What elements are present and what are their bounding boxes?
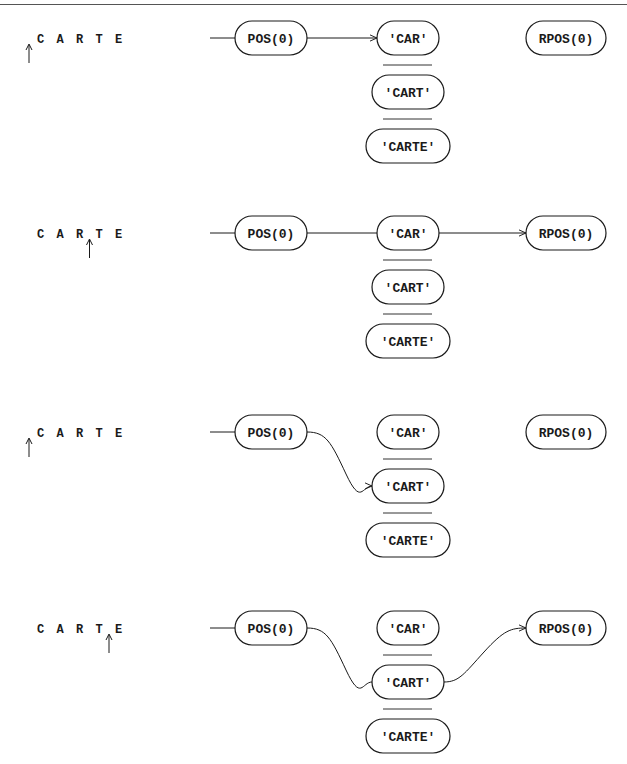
subject-char: R [76, 228, 84, 242]
match-path-edge [307, 432, 372, 492]
subject-char: C [37, 33, 44, 47]
subject-char: C [37, 427, 44, 441]
cursor-arrow-icon [106, 634, 112, 653]
rpos0-label: RPOS(0) [539, 227, 594, 242]
cursor-arrow-icon [26, 438, 32, 457]
alt-car-label: 'CAR' [388, 227, 427, 242]
rpos0-label: RPOS(0) [539, 426, 594, 441]
alt-cart-label: 'CART' [385, 86, 432, 101]
trace-panel: CARTEPOS(0)'CAR''CART''CARTE'RPOS(0) [37, 216, 606, 358]
subject-char: E [115, 228, 122, 242]
rpos0-label: RPOS(0) [539, 622, 594, 637]
subject-char: C [37, 228, 44, 242]
trace-panel: CARTEPOS(0)'CAR''CART''CARTE'RPOS(0) [26, 415, 606, 557]
alt-carte-label: 'CARTE' [381, 140, 436, 155]
subject-char: E [115, 623, 122, 637]
pattern-trace-diagram: CARTEPOS(0)'CAR''CART''CARTE'RPOS(0)CART… [0, 0, 627, 764]
subject-char: R [76, 623, 84, 637]
subject-char: A [57, 228, 65, 242]
continuation-edge [444, 628, 526, 682]
cursor-arrow-icon [26, 44, 32, 63]
alt-carte-label: 'CARTE' [381, 335, 436, 350]
pos0-label: POS(0) [248, 227, 295, 242]
alt-car-label: 'CAR' [388, 622, 427, 637]
pos0-label: POS(0) [248, 622, 295, 637]
trace-panel: CARTEPOS(0)'CAR''CART''CARTE'RPOS(0) [26, 21, 606, 163]
alt-carte-label: 'CARTE' [381, 730, 436, 745]
alt-cart-label: 'CART' [385, 480, 432, 495]
rpos0-label: RPOS(0) [539, 32, 594, 47]
subject-char: A [57, 427, 65, 441]
pos0-label: POS(0) [248, 426, 295, 441]
subject-char: A [57, 623, 65, 637]
alt-car-label: 'CAR' [388, 426, 427, 441]
match-path-edge [307, 628, 372, 688]
subject-char: R [76, 427, 84, 441]
subject-char: E [115, 427, 122, 441]
subject-char: T [96, 623, 103, 637]
subject-char: R [76, 33, 84, 47]
trace-panel: CARTEPOS(0)'CAR''CART''CARTE'RPOS(0) [37, 611, 606, 753]
pos0-label: POS(0) [248, 32, 295, 47]
alt-carte-label: 'CARTE' [381, 534, 436, 549]
subject-char: T [96, 33, 103, 47]
alt-cart-label: 'CART' [385, 281, 432, 296]
alt-car-label: 'CAR' [388, 32, 427, 47]
cursor-arrow-icon [87, 239, 93, 258]
subject-char: T [96, 427, 103, 441]
subject-char: E [115, 33, 122, 47]
subject-char: C [37, 623, 44, 637]
subject-char: T [96, 228, 103, 242]
alt-cart-label: 'CART' [385, 676, 432, 691]
subject-char: A [57, 33, 65, 47]
